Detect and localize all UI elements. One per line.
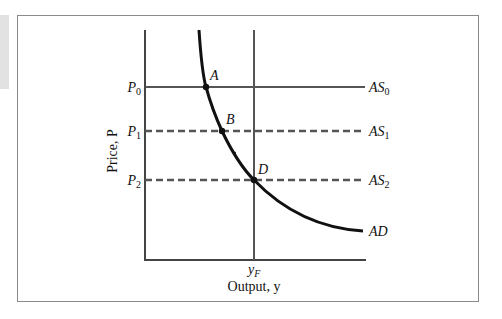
point-d <box>251 177 257 183</box>
tick-p2: P2 <box>126 173 141 190</box>
label-d: D <box>257 162 268 177</box>
label-ad: AD <box>368 224 388 239</box>
ad-as-diagram: A B D P0 P1 P2 AS0 AS1 AS2 AD yF Output,… <box>0 0 502 319</box>
x-axis-title: Output, y <box>228 279 281 294</box>
point-a <box>203 84 209 90</box>
point-b <box>219 128 225 134</box>
label-a: A <box>209 68 219 83</box>
label-as1: AS1 <box>368 124 390 141</box>
tick-yf: yF <box>246 262 261 279</box>
label-b: B <box>226 112 235 127</box>
label-as0: AS0 <box>368 80 390 97</box>
y-axis-title: Price, P <box>105 129 120 173</box>
tick-p1: P1 <box>126 124 141 141</box>
tick-p0: P0 <box>126 80 141 97</box>
label-as2: AS2 <box>368 173 390 190</box>
